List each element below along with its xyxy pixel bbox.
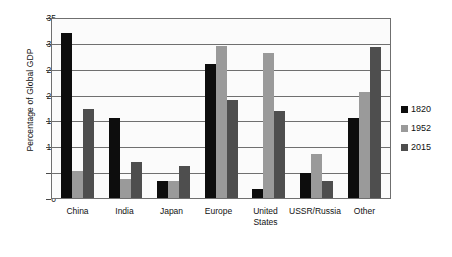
legend-label: 1820 [411, 104, 431, 114]
bar [179, 166, 190, 198]
bar-group [102, 19, 150, 198]
bar [61, 33, 72, 198]
bar [263, 53, 274, 198]
bar [205, 64, 216, 199]
bar [168, 181, 179, 198]
bar [274, 111, 285, 198]
bar [322, 181, 333, 198]
x-axis-tick-labels: ChinaIndiaJapanEuropeUnited StatesUSSR/R… [52, 206, 390, 228]
legend: 182019522015 [401, 104, 431, 152]
bar [252, 189, 263, 198]
bar [227, 100, 238, 198]
x-axis-tick-label: China [54, 206, 101, 228]
bar-group [149, 19, 197, 198]
bar [216, 46, 227, 198]
x-axis-tick-label: India [101, 206, 148, 228]
bar [157, 181, 168, 198]
bar-group [197, 19, 245, 198]
x-axis-tick-label: Other [341, 206, 388, 228]
bar [109, 118, 120, 198]
legend-swatch-icon [401, 125, 408, 132]
y-axis-tick-mark [46, 199, 51, 200]
bar-group [54, 19, 102, 198]
bar [120, 179, 131, 198]
legend-item: 1952 [401, 123, 431, 133]
legend-swatch-icon [401, 144, 408, 151]
x-axis-tick-label: Japan [148, 206, 195, 228]
bar [72, 171, 83, 198]
legend-label: 1952 [411, 123, 431, 133]
bar [300, 173, 311, 198]
bar [359, 92, 370, 198]
bar [348, 118, 359, 198]
bar [83, 109, 94, 198]
bar [131, 162, 142, 198]
bar [311, 154, 322, 198]
legend-label: 2015 [411, 142, 431, 152]
bar-group [293, 19, 341, 198]
bars-layer [52, 19, 390, 198]
x-axis-tick-label: Europe [195, 206, 242, 228]
bar-group [340, 19, 388, 198]
bar-chart: Percentage of Global GDP 05101520253035 … [0, 0, 452, 257]
x-axis-tick-label: United States [242, 206, 289, 228]
legend-item: 2015 [401, 142, 431, 152]
bar-group [245, 19, 293, 198]
x-axis-tick-label: USSR/Russia [289, 206, 341, 228]
legend-item: 1820 [401, 104, 431, 114]
bar [370, 47, 381, 198]
legend-swatch-icon [401, 106, 408, 113]
